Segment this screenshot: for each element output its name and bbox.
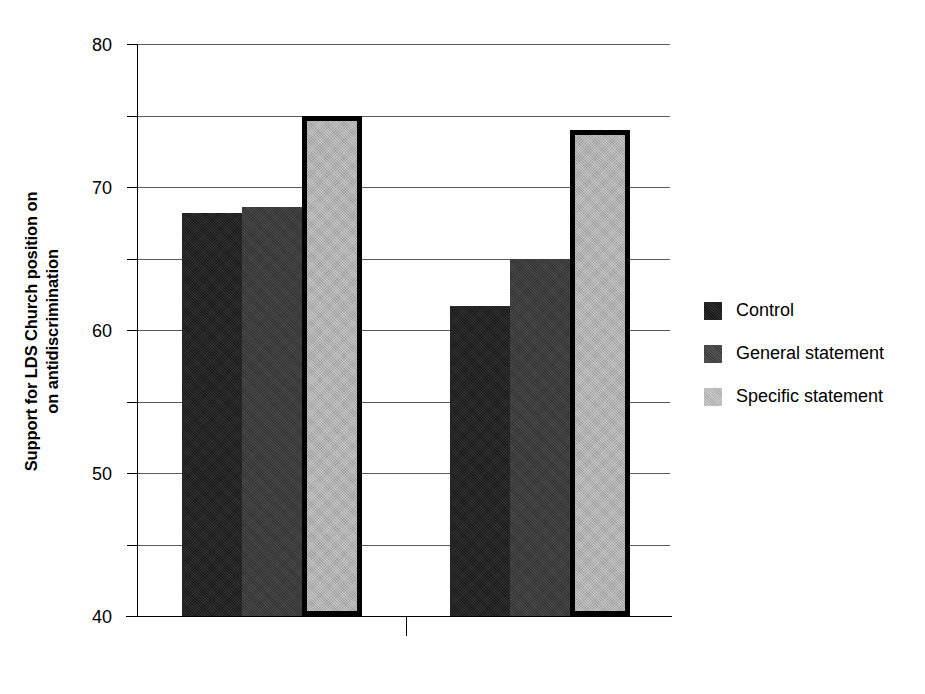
legend-item: Specific statement [704,375,919,418]
legend-item-label: General statement [736,343,884,364]
y-axis-tick-label: 80 [92,35,112,56]
legend-item: Control [704,289,919,332]
bar [510,259,570,617]
legend-swatch-icon [704,388,722,406]
plot-area: 01020304050607080 Lowest authorityHighes… [138,44,670,616]
x-axis-line [126,616,672,617]
bar [302,116,362,617]
legend-item: General statement [704,332,919,375]
bar [570,130,630,616]
y-axis-title: Support for LDS Church position on on an… [21,111,64,551]
bar [182,213,242,616]
legend: ControlGeneral statementSpecific stateme… [704,289,919,418]
bar [450,306,510,616]
legend-item-label: Specific statement [736,386,883,407]
legend-item-label: Control [736,300,794,321]
y-axis-line [137,44,138,616]
category-separator-tick [406,616,407,636]
legend-swatch-icon [704,302,722,320]
bar-chart-figure: Support for LDS Church position on on an… [0,0,925,694]
y-axis-tick-label: 40 [92,607,112,628]
y-axis-tick-label: 70 [92,178,112,199]
y-axis-tick-label: 50 [92,464,112,485]
bar [242,207,302,616]
gridline [138,44,670,45]
y-axis-tick-label: 60 [92,321,112,342]
gridline [138,116,670,117]
legend-swatch-icon [704,345,722,363]
